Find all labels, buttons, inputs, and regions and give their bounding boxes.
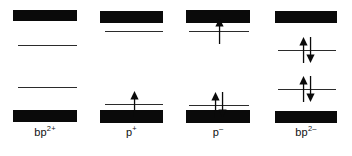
electron-arrow-down: [218, 92, 227, 118]
species-label-charge: 2+: [47, 124, 56, 133]
species-label-base: bp: [34, 126, 47, 138]
energy-level-upper: [18, 45, 77, 46]
energy-band-upper-band: [13, 10, 77, 21]
species-label-p+: p+: [100, 126, 163, 138]
electron-arrow-up: [215, 18, 224, 44]
energy-band-lower-band: [275, 111, 337, 123]
energy-column-bp2+: bp2+: [13, 0, 77, 156]
energy-column-bp2-: bp2–: [275, 0, 337, 156]
energy-level-upper: [105, 31, 163, 32]
species-label-p-: p–: [186, 126, 250, 138]
species-label-charge: +: [132, 124, 137, 133]
species-label-bp2+: bp2+: [13, 126, 77, 138]
energy-band-lower-band: [13, 110, 77, 122]
energy-band-upper-band: [100, 11, 163, 23]
species-label-bp2-: bp2–: [275, 126, 337, 138]
electron-arrow-down: [306, 76, 315, 102]
species-label-charge: 2–: [308, 124, 317, 133]
energy-band-upper-band: [275, 11, 337, 23]
species-label-base: bp: [295, 126, 308, 138]
energy-level-diagram: bp2+p+p–bp2–: [0, 0, 352, 156]
electron-arrow-down: [306, 37, 315, 63]
species-label-charge: –: [219, 124, 223, 133]
energy-level-lower: [18, 87, 77, 88]
electron-arrow-up: [130, 91, 139, 117]
energy-column-p-: p–: [186, 0, 250, 156]
energy-column-p+: p+: [100, 0, 163, 156]
